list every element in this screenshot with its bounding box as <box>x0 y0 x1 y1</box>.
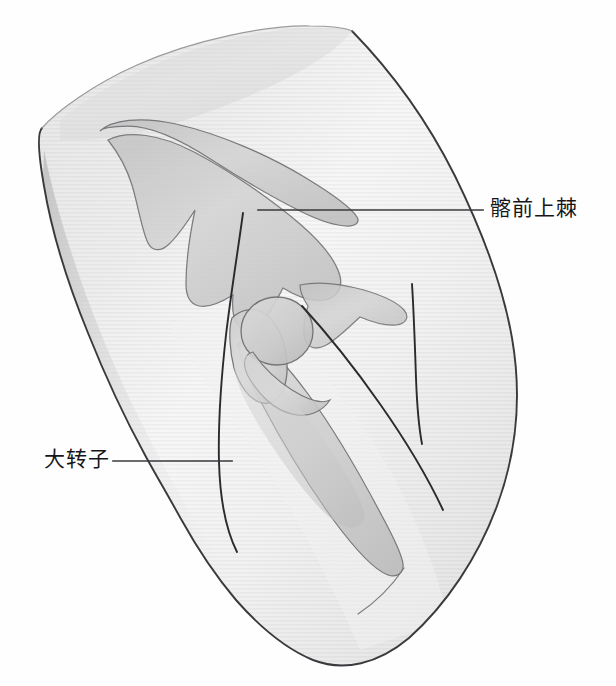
label-greater-trochanter: 大转子 <box>44 449 110 470</box>
anatomy-figure: 髂前上棘 大转子 <box>0 0 616 686</box>
label-anterior-superior-iliac-spine: 髂前上棘 <box>490 198 578 219</box>
anatomy-illustration-svg <box>0 0 616 686</box>
